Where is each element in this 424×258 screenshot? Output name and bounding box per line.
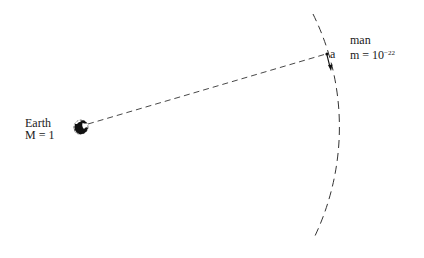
man-mass-label: m = 10−22: [350, 47, 395, 61]
earth-to-man-dashed-line: [88, 54, 326, 124]
man-mass-base: m = 10: [350, 48, 384, 62]
man-point-label: a: [330, 48, 335, 60]
man-point-dot: [325, 52, 328, 55]
man-mass-exponent: −22: [384, 49, 395, 57]
earth-mass-label: M = 1: [25, 129, 54, 141]
man-name-label: man: [350, 34, 371, 46]
earth-globe-icon: [74, 120, 88, 135]
orbit-arc-dashed: [313, 14, 339, 240]
